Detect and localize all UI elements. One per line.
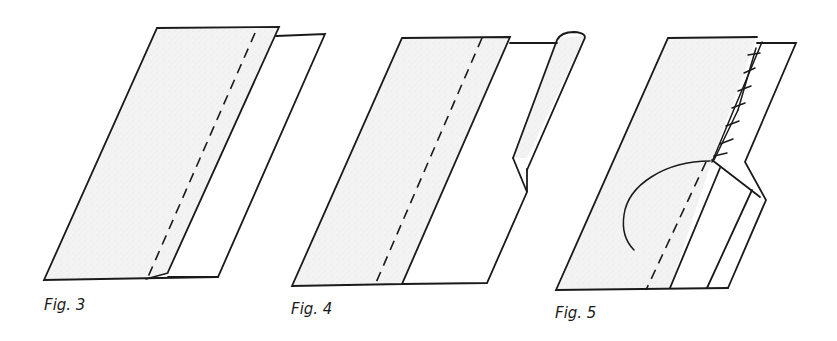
figure-5-drawing [556, 37, 796, 290]
fig-5-label: Fig. 5 [555, 306, 596, 321]
sewing-diagram [0, 0, 837, 341]
figure-3-drawing [44, 27, 325, 280]
fig-4-label: Fig. 4 [291, 302, 332, 317]
figure-4-drawing [292, 32, 585, 286]
fig-3-label: Fig. 3 [44, 298, 85, 313]
